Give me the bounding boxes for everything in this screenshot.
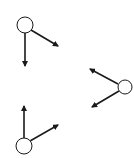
vector-arrow-icon <box>30 125 58 141</box>
node-right-circle-icon <box>118 80 132 94</box>
force-vector-diagram <box>0 0 134 158</box>
vector-arrow-icon <box>92 91 119 107</box>
vector-arrow-icon <box>90 69 118 84</box>
nodes-layer <box>16 17 132 154</box>
node-top-left-circle-icon <box>17 17 33 33</box>
node-bottom-left-circle-icon <box>16 138 32 154</box>
vector-arrow-icon <box>31 30 58 46</box>
arrows-layer <box>24 30 119 141</box>
